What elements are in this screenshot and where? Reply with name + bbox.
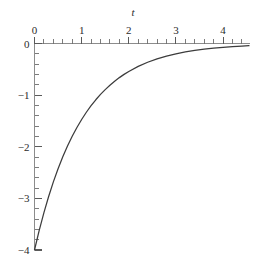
- y-tick-label: −4: [18, 244, 30, 256]
- x-axis-tick-labels: 01234: [32, 24, 227, 36]
- y-tick-label: −2: [18, 141, 30, 153]
- x-axis-label: t: [131, 6, 135, 18]
- x-tick-label: 2: [126, 24, 132, 36]
- chart-figure: 01234 0−1−2−3−4 t: [0, 0, 259, 261]
- exponential-decay-plot: 01234 0−1−2−3−4 t: [0, 0, 259, 261]
- x-tick-label: 3: [173, 24, 179, 36]
- y-axis-tick-labels: 0−1−2−3−4: [18, 38, 30, 257]
- data-series-curve: [35, 46, 250, 250]
- y-tick-label: −1: [18, 89, 30, 101]
- x-tick-label: 4: [220, 24, 226, 36]
- y-tick-label: 0: [24, 38, 30, 50]
- x-tick-label: 1: [79, 24, 85, 36]
- y-tick-label: −3: [18, 192, 30, 204]
- x-tick-label: 0: [32, 24, 38, 36]
